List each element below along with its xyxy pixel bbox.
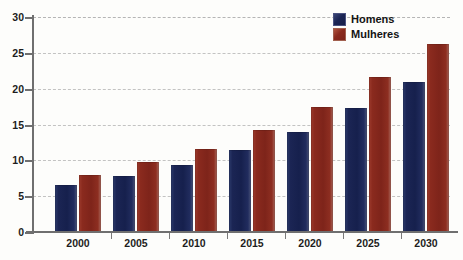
y-label-0: 0 <box>2 227 24 238</box>
bar-mulheres-2030[interactable] <box>427 44 449 232</box>
plot-area <box>33 17 450 232</box>
bar-group-2000 <box>55 17 101 232</box>
legend-label-mulheres: Mulheres <box>351 29 399 40</box>
y-tick-5 <box>25 196 33 198</box>
bar-fill <box>403 82 425 232</box>
bar-fill <box>137 162 159 232</box>
bar-group-2015 <box>229 17 275 232</box>
bar-mulheres-2025[interactable] <box>369 77 391 232</box>
y-tick-15 <box>25 125 33 127</box>
bar-fill <box>253 130 275 232</box>
y-label-25: 25 <box>2 48 24 59</box>
x-label-2020: 2020 <box>280 238 340 249</box>
x-label-2010: 2010 <box>164 238 224 249</box>
bar-homens-2010[interactable] <box>171 165 193 232</box>
bar-mulheres-2020[interactable] <box>311 107 333 232</box>
y-tick-30 <box>25 17 33 19</box>
bar-group-2010 <box>171 17 217 232</box>
y-tick-0 <box>25 232 33 234</box>
bar-group-2020 <box>287 17 333 232</box>
y-label-30: 30 <box>2 12 24 23</box>
chart-legend: Homens Mulheres <box>333 13 399 41</box>
bar-fill <box>229 150 251 232</box>
bar-mulheres-2015[interactable] <box>253 130 275 232</box>
y-label-5: 5 <box>2 191 24 202</box>
bar-fill <box>79 175 101 232</box>
x-label-2015: 2015 <box>222 238 282 249</box>
bar-group-2025 <box>345 17 391 232</box>
bar-fill <box>113 176 135 232</box>
legend-swatch-homens-icon <box>333 13 346 26</box>
x-axis-line <box>26 231 458 233</box>
bar-homens-2020[interactable] <box>287 132 309 232</box>
bar-mulheres-2005[interactable] <box>137 162 159 232</box>
legend-item-mulheres[interactable]: Mulheres <box>333 28 399 41</box>
bar-homens-2030[interactable] <box>403 82 425 232</box>
legend-item-homens[interactable]: Homens <box>333 13 399 26</box>
y-tick-20 <box>25 89 33 91</box>
bar-group-2005 <box>113 17 159 232</box>
bar-homens-2015[interactable] <box>229 150 251 232</box>
y-label-10: 10 <box>2 155 24 166</box>
bar-chart: 30 25 20 15 10 5 0 2000 2005 2010 2015 2… <box>0 0 463 260</box>
bar-homens-2000[interactable] <box>55 185 77 232</box>
legend-label-homens: Homens <box>351 14 394 25</box>
x-label-2005: 2005 <box>106 238 166 249</box>
x-label-2025: 2025 <box>338 238 398 249</box>
bar-mulheres-2000[interactable] <box>79 175 101 232</box>
y-label-15: 15 <box>2 120 24 131</box>
bar-fill <box>171 165 193 232</box>
x-label-2030: 2030 <box>396 238 456 249</box>
x-label-2000: 2000 <box>48 238 108 249</box>
bar-fill <box>369 77 391 232</box>
bar-fill <box>195 149 217 232</box>
bar-homens-2025[interactable] <box>345 108 367 232</box>
y-tick-10 <box>25 160 33 162</box>
bar-fill <box>311 107 333 232</box>
y-tick-25 <box>25 53 33 55</box>
bar-fill <box>427 44 449 232</box>
legend-swatch-mulheres-icon <box>333 28 346 41</box>
bar-fill <box>345 108 367 232</box>
bar-group-2030 <box>403 17 449 232</box>
bar-fill <box>55 185 77 232</box>
bar-mulheres-2010[interactable] <box>195 149 217 232</box>
y-label-20: 20 <box>2 84 24 95</box>
bar-fill <box>287 132 309 232</box>
y-axis-labels: 30 25 20 15 10 5 0 <box>0 0 24 260</box>
bar-homens-2005[interactable] <box>113 176 135 232</box>
